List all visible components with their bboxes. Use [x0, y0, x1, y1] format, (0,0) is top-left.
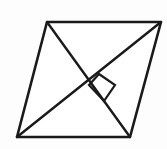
geometry-canvas [0, 0, 167, 149]
geometry-figure [0, 0, 167, 149]
